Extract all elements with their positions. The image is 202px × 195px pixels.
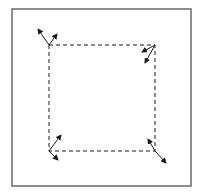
arrow-bottom-left <box>49 135 61 151</box>
outer-frame <box>12 9 191 186</box>
corner-arrows <box>38 29 166 163</box>
dashed-square <box>49 45 155 151</box>
diagram-canvas <box>0 0 202 195</box>
arrow-top-left <box>38 29 49 45</box>
arrow-bottom-right <box>155 151 166 163</box>
arrow-bottom-left <box>49 151 58 160</box>
arrow-bottom-right <box>148 139 155 151</box>
arrow-top-left <box>49 34 57 45</box>
